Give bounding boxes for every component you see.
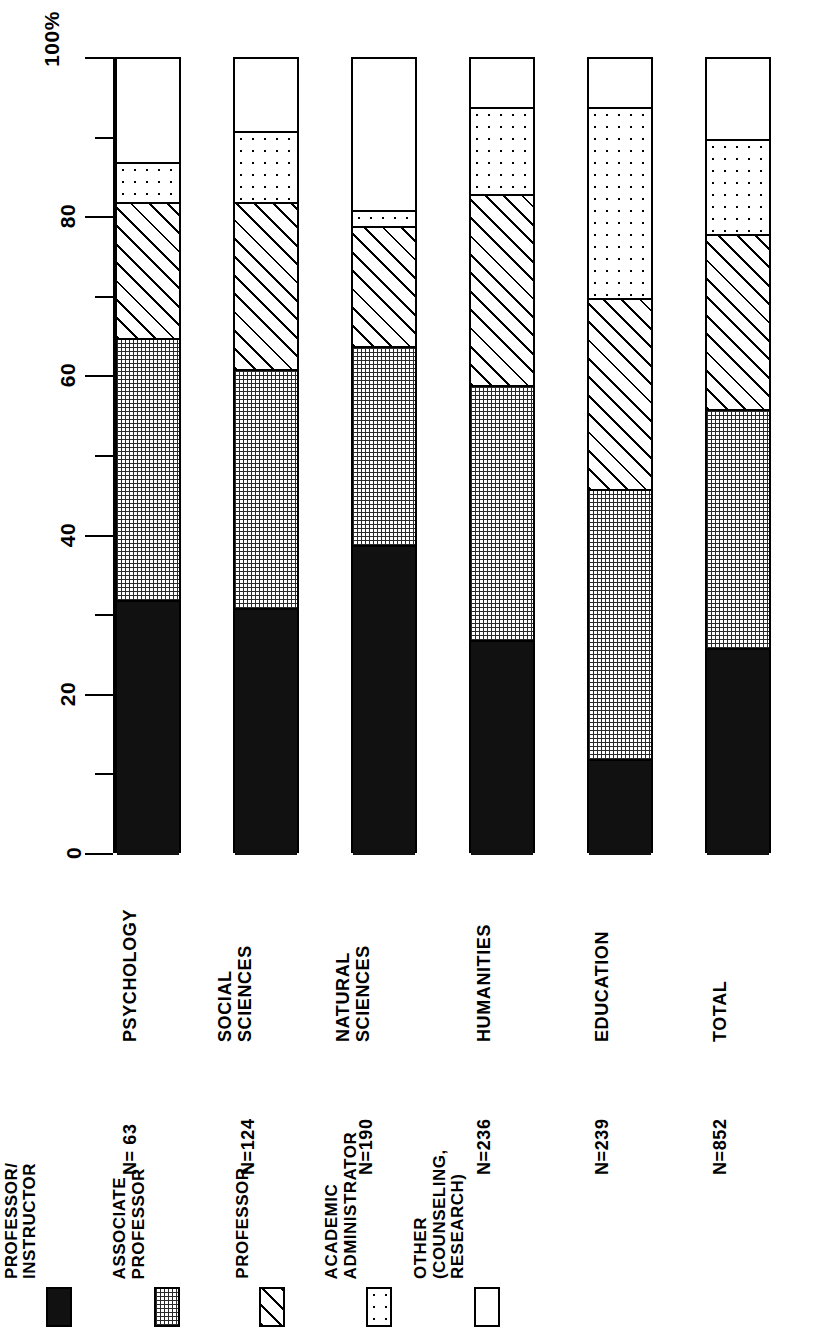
category-label-6: TOTAL: [710, 981, 730, 1042]
legend-label-4: ACADEMICADMINISTRATOR: [323, 1131, 360, 1279]
legend-label-3: PROFESSOR: [234, 1168, 253, 1279]
axis-tick-major: [85, 853, 113, 855]
bar-segment-dots: [707, 139, 769, 235]
bar-segment-dots: [471, 107, 533, 195]
bar-6[interactable]: [705, 57, 771, 853]
legend-label-5: OTHER(COUNSELING,RESEARCH): [412, 1149, 468, 1279]
legend-label-1: ASSISTANTPROFESSOR/INSTRUCTOR: [0, 1163, 40, 1279]
bar-segment-white: [117, 59, 179, 162]
bar-segment-grid: [589, 489, 651, 760]
axis-tick-label: 60: [0, 363, 80, 387]
bar-segment-grid: [707, 409, 769, 648]
axis-tick-label: 100%: [0, 27, 80, 51]
axis-tick-minor: [95, 137, 113, 139]
bar-segment-solid: [353, 545, 415, 855]
bar-2[interactable]: [233, 57, 299, 853]
plot-area: [115, 57, 824, 853]
bar-segment-white: [589, 59, 651, 107]
axis-tick-label: 0: [0, 841, 80, 865]
bar-4[interactable]: [469, 57, 535, 853]
category-label-5: EDUCATION: [592, 931, 612, 1042]
legend-swatch-dots: [366, 1287, 392, 1327]
bar-segment-solid: [589, 759, 651, 855]
category-label-4: HUMANITIES: [474, 924, 494, 1042]
axis-tick-minor: [95, 773, 113, 775]
axis-tick-major: [85, 57, 113, 59]
bar-segment-hatch: [235, 202, 297, 369]
bar-segment-grid: [353, 346, 415, 545]
bar-segment-white: [471, 59, 533, 107]
chart-legend: ASSISTANTPROFESSOR/INSTRUCTORASSOCIATEPR…: [0, 1140, 824, 1331]
bar-segment-grid: [117, 338, 179, 601]
bar-segment-solid: [117, 600, 179, 855]
bar-segment-white: [707, 59, 769, 139]
axis-tick-major: [85, 216, 113, 218]
bar-3[interactable]: [351, 57, 417, 853]
category-label-2: SOCIALSCIENCES: [215, 945, 255, 1042]
bar-segment-grid: [235, 369, 297, 608]
bar-segment-hatch: [117, 202, 179, 337]
legend-label-2: ASSOCIATEPROFESSOR: [111, 1168, 148, 1279]
bar-segment-hatch: [707, 234, 769, 409]
bar-segment-solid: [707, 648, 769, 855]
axis-tick-label: 20: [0, 682, 80, 706]
axis-tick-label: 80: [0, 204, 80, 228]
axis-tick-major: [85, 535, 113, 537]
bar-segment-dots: [589, 107, 651, 298]
axis-tick-major: [85, 694, 113, 696]
axis-tick-minor: [95, 455, 113, 457]
bar-segment-grid: [471, 385, 533, 640]
axis-tick-minor: [95, 296, 113, 298]
bar-segment-solid: [471, 640, 533, 855]
legend-swatch-white: [474, 1287, 500, 1327]
legend-swatch-hatch: [259, 1287, 285, 1327]
bar-segment-dots: [235, 131, 297, 203]
bar-segment-white: [353, 59, 415, 210]
category-label-1: PSYCHOLOGY: [120, 909, 140, 1042]
stacked-bar-chart: 020406080100% PSYCHOLOGYSOCIALSCIENCESNA…: [0, 0, 824, 1331]
bar-segment-dots: [353, 210, 415, 226]
legend-swatch-grid: [154, 1287, 180, 1327]
axis-tick-minor: [95, 614, 113, 616]
bar-1[interactable]: [115, 57, 181, 853]
bar-segment-hatch: [353, 226, 415, 345]
bar-segment-dots: [117, 162, 179, 202]
bar-segment-white: [235, 59, 297, 131]
axis-tick-label: 40: [0, 523, 80, 547]
bar-segment-hatch: [589, 298, 651, 489]
legend-swatch-solid: [46, 1287, 72, 1327]
axis-tick-major: [85, 375, 113, 377]
bar-segment-hatch: [471, 194, 533, 385]
bar-segment-solid: [235, 608, 297, 855]
bar-5[interactable]: [587, 57, 653, 853]
category-label-3: NATURALSCIENCES: [333, 945, 373, 1042]
